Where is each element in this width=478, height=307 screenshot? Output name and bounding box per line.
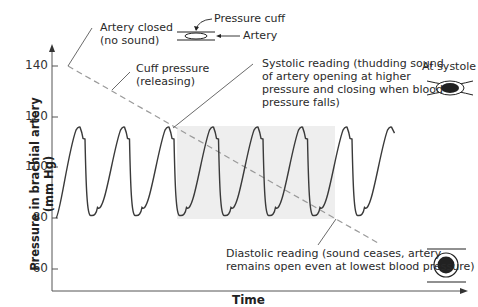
at-systole-label: At systole — [422, 60, 476, 73]
x-axis-arrow-icon — [460, 288, 468, 294]
y-tick-140: 140 — [24, 58, 48, 72]
y-axis-arrow-icon — [49, 44, 55, 52]
x-axis-label: Time — [232, 293, 265, 307]
cuff-pressure-label: Cuff pressure (releasing) — [136, 62, 209, 88]
pressure-cuff-label: Pressure cuff — [214, 12, 285, 25]
blood-pressure-diagram: 140 120 100 80 60 Pressure in brachial a… — [0, 0, 478, 307]
cuff-pressure-leader — [112, 72, 130, 90]
artery-closed-label: Artery closed (no sound) — [100, 21, 173, 47]
artery-label: Artery — [243, 29, 277, 42]
diastolic-reading-label: Diastolic reading (sound ceases, artery … — [226, 247, 475, 273]
systolic-reading-label: Systolic reading (thudding sound of arte… — [262, 57, 444, 109]
artery-closed-leader — [68, 28, 92, 66]
diastolic-leader — [318, 219, 336, 245]
y-axis-label: Pressure in brachial artery (mm Hg) — [28, 84, 56, 284]
